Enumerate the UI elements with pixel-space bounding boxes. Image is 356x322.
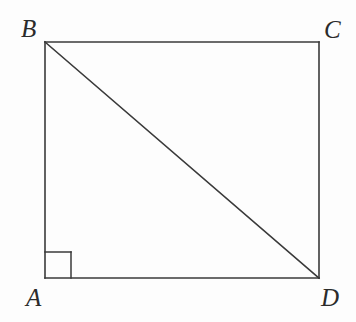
geometry-figure: B C A D [0,0,356,322]
right-angle-marker-icon [45,252,71,278]
vertex-label-a: A [26,285,41,310]
vertex-label-d: D [321,285,339,310]
vertex-label-b: B [21,16,36,41]
figure-canvas [0,0,356,322]
vertex-label-c: C [324,17,341,42]
diagonal-bd [45,42,319,278]
